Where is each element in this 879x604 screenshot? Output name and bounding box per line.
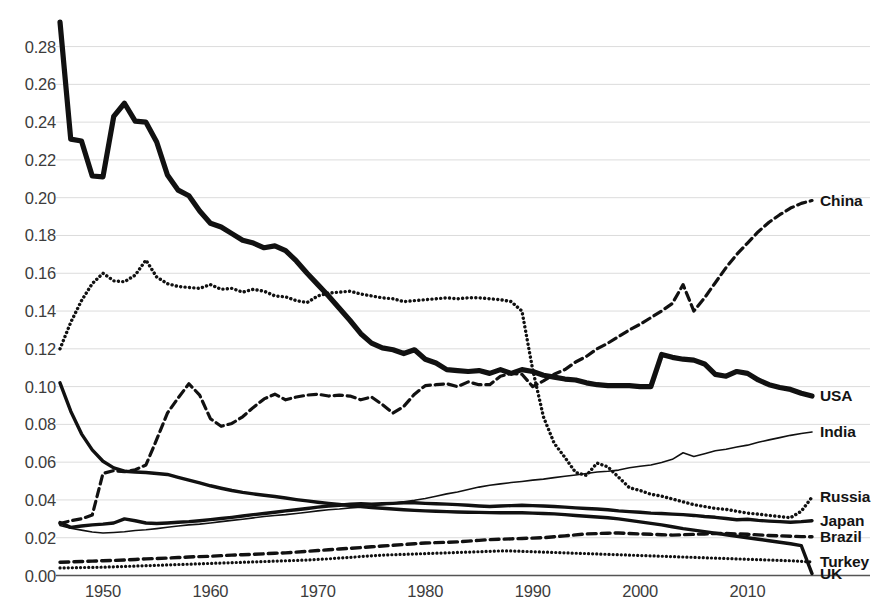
- x-tick-label: 1960: [170, 582, 250, 601]
- line-chart: 0.000.020.040.060.080.100.120.140.160.18…: [0, 0, 879, 604]
- plot-area: [0, 0, 879, 604]
- y-tick-label: 0.18: [0, 226, 56, 245]
- series-label-russia: Russia: [820, 488, 870, 506]
- x-tick-label: 1980: [385, 582, 465, 601]
- x-tick-label: 2010: [708, 582, 788, 601]
- series-label-brazil: Brazil: [820, 528, 862, 546]
- y-tick-label: 0.12: [0, 339, 56, 358]
- y-tick-label: 0.16: [0, 264, 56, 283]
- x-tick-label: 1950: [63, 582, 143, 601]
- x-tick-label: 1990: [493, 582, 573, 601]
- series-line-india: [60, 432, 812, 533]
- y-tick-label: 0.22: [0, 150, 56, 169]
- y-tick-label: 0.08: [0, 415, 56, 434]
- series-label-usa: USA: [820, 387, 852, 405]
- y-tick-label: 0.00: [0, 566, 56, 585]
- y-tick-label: 0.28: [0, 37, 56, 56]
- series-line-usa: [60, 22, 812, 396]
- series-line-uk: [60, 383, 812, 574]
- x-tick-label: 2000: [600, 582, 680, 601]
- series-label-china: China: [820, 192, 863, 210]
- y-tick-label: 0.10: [0, 377, 56, 396]
- series-line-russia: [60, 260, 812, 518]
- series-lines: [60, 22, 812, 574]
- y-tick-label: 0.24: [0, 113, 56, 132]
- y-tick-label: 0.20: [0, 188, 56, 207]
- series-label-uk: UK: [820, 565, 842, 583]
- y-tick-label: 0.14: [0, 302, 56, 321]
- y-tick-label: 0.26: [0, 75, 56, 94]
- y-tick-label: 0.04: [0, 490, 56, 509]
- y-tick-label: 0.06: [0, 453, 56, 472]
- y-tick-label: 0.02: [0, 528, 56, 547]
- x-tick-label: 1970: [278, 582, 358, 601]
- series-label-india: India: [820, 423, 856, 441]
- gridlines: [56, 47, 870, 576]
